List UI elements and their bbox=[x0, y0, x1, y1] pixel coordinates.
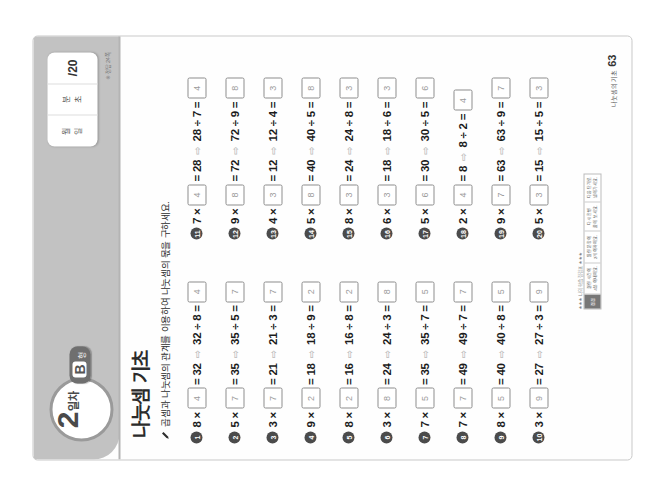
footer-label: 나눗셈의 기초 bbox=[609, 69, 618, 107]
equals-symbol: = bbox=[457, 175, 469, 181]
equals-symbol: = bbox=[533, 305, 545, 311]
answer-box-factor[interactable]: 8 bbox=[377, 387, 396, 408]
answer-box-factor[interactable]: 7 bbox=[491, 184, 510, 205]
equals-symbol: = bbox=[305, 305, 317, 311]
divide-symbol: ÷ bbox=[495, 323, 507, 329]
answer-box-quotient[interactable]: 2 bbox=[339, 281, 358, 302]
dividend: 24 bbox=[343, 129, 355, 141]
answer-box-factor[interactable]: 4 bbox=[187, 184, 206, 205]
answer-box-factor[interactable]: 3 bbox=[377, 184, 396, 205]
answer-box-quotient[interactable]: 3 bbox=[263, 77, 282, 98]
answer-box-factor[interactable]: 9 bbox=[529, 387, 548, 408]
answer-box-quotient[interactable]: 3 bbox=[529, 77, 548, 98]
times-symbol: × bbox=[343, 411, 355, 417]
answer-box-quotient[interactable]: 5 bbox=[491, 281, 510, 302]
answer-box-quotient[interactable]: 8 bbox=[225, 77, 244, 98]
equals-symbol: = bbox=[191, 305, 203, 311]
arrow-icon: ⇨ bbox=[191, 146, 202, 154]
answer-box-quotient[interactable]: 6 bbox=[415, 77, 434, 98]
divisor: 5 bbox=[533, 111, 545, 117]
divide-symbol: ÷ bbox=[381, 323, 393, 329]
product: 16 bbox=[343, 363, 355, 375]
times-symbol: × bbox=[381, 208, 393, 214]
answer-box-factor[interactable]: 4 bbox=[187, 387, 206, 408]
answer-box-quotient[interactable]: 7 bbox=[263, 281, 282, 302]
answer-box-factor[interactable]: 2 bbox=[339, 387, 358, 408]
product: 18 bbox=[381, 159, 393, 171]
answer-box-factor[interactable]: 8 bbox=[301, 184, 320, 205]
dividend: 8 bbox=[457, 141, 469, 147]
multiplicand: 3 bbox=[381, 421, 393, 427]
multiplicand: 5 bbox=[305, 217, 317, 223]
answer-box-factor[interactable]: 8 bbox=[225, 184, 244, 205]
answer-box-quotient[interactable]: 4 bbox=[187, 281, 206, 302]
answer-box-quotient[interactable]: 3 bbox=[339, 77, 358, 98]
score-points-column[interactable]: /20 bbox=[48, 52, 98, 84]
equals-symbol: = bbox=[381, 378, 393, 384]
answer-box-factor[interactable]: 7 bbox=[453, 387, 472, 408]
product: 35 bbox=[419, 363, 431, 375]
answer-box-quotient[interactable]: 4 bbox=[453, 89, 472, 110]
problem-number: 5 bbox=[343, 431, 355, 443]
answer-box-quotient[interactable]: 7 bbox=[491, 77, 510, 98]
multiplicand: 5 bbox=[533, 217, 545, 223]
multiplicand: 8 bbox=[343, 421, 355, 427]
answer-box-factor[interactable]: 3 bbox=[263, 184, 282, 205]
score-sec-label: 초 bbox=[73, 96, 84, 103]
divisor: 6 bbox=[381, 111, 393, 117]
answer-box-quotient[interactable]: 3 bbox=[377, 77, 396, 98]
dividend: 18 bbox=[305, 332, 317, 344]
equals-symbol: = bbox=[229, 305, 241, 311]
answer-box-quotient[interactable]: 9 bbox=[529, 281, 548, 302]
arrow-icon: ⇨ bbox=[343, 146, 354, 154]
divide-symbol: ÷ bbox=[267, 323, 279, 329]
equals-symbol: = bbox=[457, 378, 469, 384]
answer-box-factor[interactable]: 3 bbox=[529, 184, 548, 205]
arrow-icon: ⇨ bbox=[267, 146, 278, 154]
pencil-icon bbox=[160, 430, 169, 439]
arrow-icon: ⇨ bbox=[381, 146, 392, 154]
equals-symbol: = bbox=[191, 101, 203, 107]
dividend: 21 bbox=[267, 332, 279, 344]
answer-box-quotient[interactable]: 8 bbox=[301, 77, 320, 98]
answer-box-factor[interactable]: 3 bbox=[339, 184, 358, 205]
answer-box-quotient[interactable]: 7 bbox=[453, 281, 472, 302]
answer-box-factor[interactable]: 5 bbox=[491, 387, 510, 408]
score-time-column[interactable]: 분 초 bbox=[48, 84, 98, 116]
score-card[interactable]: 월 일 분 초 /20 bbox=[48, 52, 98, 146]
dividend: 24 bbox=[381, 332, 393, 344]
problem-row: 158×3=24⇨24÷8=3 bbox=[330, 50, 368, 240]
score-date-column[interactable]: 월 일 bbox=[48, 115, 98, 146]
answer-box-factor[interactable]: 5 bbox=[415, 387, 434, 408]
arrow-icon: ⇨ bbox=[495, 146, 506, 154]
equals-symbol: = bbox=[267, 101, 279, 107]
divide-symbol: ÷ bbox=[229, 120, 241, 126]
equals-symbol: = bbox=[267, 175, 279, 181]
answer-box-factor[interactable]: 4 bbox=[453, 184, 472, 205]
problem-number: 15 bbox=[343, 228, 355, 240]
divide-symbol: ÷ bbox=[457, 132, 469, 138]
problem-number: 13 bbox=[267, 228, 279, 240]
equals-symbol: = bbox=[191, 378, 203, 384]
self-check-cell: 다음 단계로 넘어가세요. bbox=[585, 174, 601, 202]
answer-box-factor[interactable]: 6 bbox=[415, 184, 434, 205]
times-symbol: × bbox=[229, 208, 241, 214]
divide-symbol: ÷ bbox=[419, 120, 431, 126]
answer-box-quotient[interactable]: 8 bbox=[377, 281, 396, 302]
answer-box-quotient[interactable]: 7 bbox=[225, 281, 244, 302]
problem-number: 3 bbox=[267, 431, 279, 443]
times-symbol: × bbox=[343, 208, 355, 214]
score-month-label: 월 bbox=[61, 127, 72, 134]
answer-box-factor[interactable]: 2 bbox=[301, 387, 320, 408]
problem-row: 87×7=49⇨49÷7=7 bbox=[444, 254, 482, 444]
self-check-head: 점검 bbox=[585, 294, 601, 308]
answer-box-quotient[interactable]: 5 bbox=[415, 281, 434, 302]
problem-number: 18 bbox=[457, 228, 469, 240]
equals-symbol: = bbox=[495, 305, 507, 311]
answer-box-factor[interactable]: 7 bbox=[225, 387, 244, 408]
answer-box-quotient[interactable]: 4 bbox=[187, 77, 206, 98]
answer-box-quotient[interactable]: 2 bbox=[301, 281, 320, 302]
divide-symbol: ÷ bbox=[381, 120, 393, 126]
times-symbol: × bbox=[191, 411, 203, 417]
answer-box-factor[interactable]: 7 bbox=[263, 387, 282, 408]
